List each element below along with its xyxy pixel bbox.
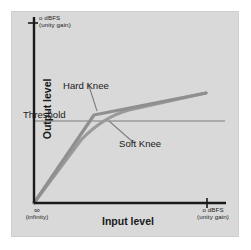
x-axis-right-tick-label-line2: (unity gain) xyxy=(197,213,229,220)
x-axis-right-tick-label-line1: o dBFS xyxy=(202,206,223,213)
compressor-knee-diagram: o dBFS (unity gain) ∞ (infinity) o dBFS … xyxy=(11,11,239,237)
x-axis-title: Input level xyxy=(73,216,183,228)
origin-label-text: (infinity) xyxy=(26,213,49,220)
threshold-annotation: Threshold xyxy=(23,110,66,121)
soft-knee-annotation: Soft Knee xyxy=(119,139,161,150)
x-axis-right-tick-label: o dBFS (unity gain) xyxy=(183,207,243,221)
hard-knee-annotation: Hard Knee xyxy=(63,81,109,92)
origin-label: ∞ (infinity) xyxy=(9,207,65,221)
y-axis-top-tick-label-line1: o dBFS xyxy=(39,14,60,21)
y-axis-top-tick-label-line2: (unity gain) xyxy=(39,21,71,28)
y-axis-top-tick-label: o dBFS (unity gain) xyxy=(39,15,99,29)
